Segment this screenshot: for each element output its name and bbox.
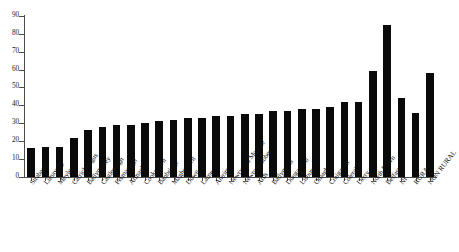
y-tick-label-wrap: 10 <box>0 155 19 163</box>
y-tick-label-wrap: 40 <box>0 101 19 109</box>
y-tick-label: 80 <box>0 30 19 37</box>
y-tick-label: 50 <box>0 83 19 90</box>
y-tick <box>19 177 25 178</box>
y-tick-label-wrap: 70 <box>0 48 19 56</box>
y-tick-label: 40 <box>0 101 19 108</box>
y-tick-label: 20 <box>0 137 19 144</box>
y-tick-label: 30 <box>0 119 19 126</box>
y-tick-label-wrap: 90 <box>0 12 19 20</box>
bar <box>398 98 406 177</box>
y-tick-label: 10 <box>0 155 19 162</box>
bar <box>269 111 277 177</box>
bar <box>198 118 206 177</box>
bars-layer <box>24 15 437 177</box>
y-tick-label-wrap: 20 <box>0 137 19 145</box>
y-tick-label-wrap: 60 <box>0 66 19 74</box>
bar <box>212 116 220 177</box>
y-tick-label-wrap: 80 <box>0 30 19 38</box>
y-tick-label: 0 <box>0 173 19 180</box>
y-tick-label: 90 <box>0 12 19 19</box>
bar <box>369 71 377 177</box>
bar <box>426 73 434 177</box>
y-tick-label-wrap: 30 <box>0 119 19 127</box>
y-tick-label-wrap: 0 <box>0 173 19 181</box>
y-tick-label-wrap: 50 <box>0 83 19 91</box>
bar <box>412 113 420 177</box>
y-tick-label: 70 <box>0 48 19 55</box>
y-tick-label: 60 <box>0 66 19 73</box>
